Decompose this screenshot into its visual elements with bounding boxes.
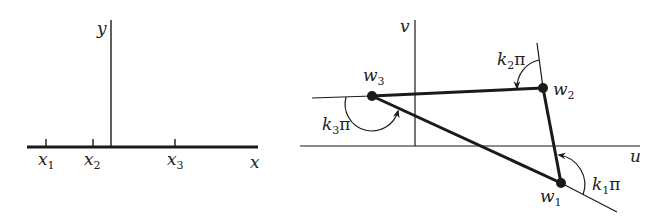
extension-w3: [312, 96, 372, 98]
right-panel: v u w3 w2 w1 k3π k2π k1π: [300, 16, 641, 212]
edge-w3-w2: [372, 88, 543, 96]
u-axis-label: u: [630, 146, 641, 166]
diagram: y x x1 x2 x3 v u w3 w2 w1 k: [0, 0, 658, 217]
vertex-label-w3: w3: [363, 65, 385, 88]
left-panel: y x x1 x2 x3: [27, 18, 260, 172]
vertex-w1: [556, 178, 566, 188]
vertex-w3: [367, 91, 377, 101]
vertex-label-w2: w2: [553, 79, 575, 102]
angle-label-k2: k2π: [497, 49, 526, 72]
y-axis-label: y: [96, 18, 107, 38]
tick-label-x3: x3: [167, 149, 184, 172]
angle-arc-k3: [345, 97, 398, 131]
vertex-label-w1: w1: [540, 186, 562, 209]
edge-w2-w1: [543, 88, 561, 183]
x-axis-label: x: [250, 152, 260, 172]
v-axis-label: v: [400, 16, 410, 36]
tick-label-x1: x1: [38, 149, 55, 172]
tick-label-x2: x2: [84, 149, 101, 172]
vertex-w2: [538, 83, 548, 93]
edge-w1-w3: [372, 96, 561, 183]
angle-label-k3: k3π: [322, 114, 351, 137]
angle-label-k1: k1π: [592, 174, 621, 197]
extension-w2: [537, 43, 543, 88]
